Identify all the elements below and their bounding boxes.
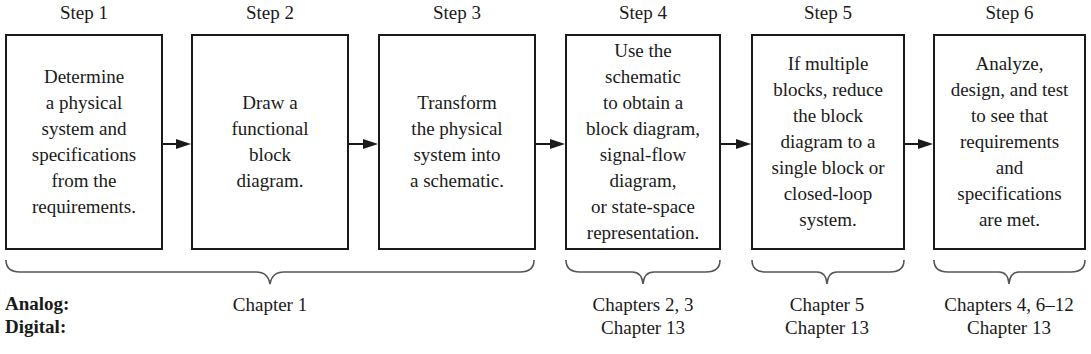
brace-icon [6, 260, 534, 284]
arrow-icon [349, 139, 378, 149]
group-2-digital: Chapter 13 [553, 316, 733, 339]
brace-icon [934, 260, 1085, 284]
analog-row-label: Analog: [5, 293, 69, 315]
group-4-digital: Chapter 13 [919, 316, 1091, 339]
group-3-analog: Chapter 5 [737, 293, 917, 316]
brace-icon [566, 260, 720, 284]
arrow-icon [905, 139, 933, 149]
group-1-analog: Chapter 1 [170, 293, 370, 316]
brace-icon [752, 260, 904, 284]
arrow-icon [721, 139, 751, 149]
arrow-icon [163, 139, 191, 149]
digital-row-label: Digital: [5, 316, 66, 338]
group-2-analog: Chapters 2, 3 [553, 293, 733, 316]
group-4-analog: Chapters 4, 6–12 [919, 293, 1091, 316]
arrow-icon [536, 139, 565, 149]
group-3-digital: Chapter 13 [737, 316, 917, 339]
